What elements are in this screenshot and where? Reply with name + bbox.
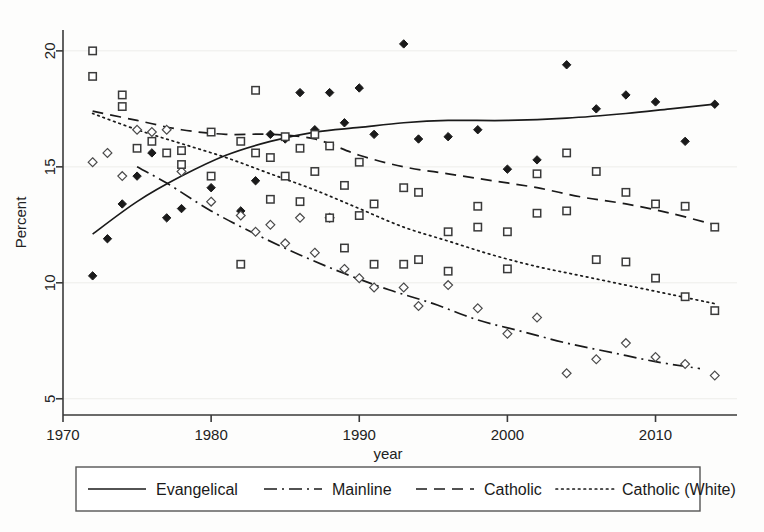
data-point-marker [296,145,303,152]
data-point-marker [133,172,141,180]
data-point-marker [237,261,244,268]
x-tick-label: 1970 [46,426,79,443]
data-point-marker [326,214,333,221]
data-point-marker [147,128,156,137]
data-point-marker [681,293,688,300]
data-point-marker [711,223,718,230]
data-point-marker [415,189,422,196]
data-point-marker [118,172,127,181]
data-point-marker [103,235,111,243]
data-point-marker [281,172,288,179]
data-point-marker [473,304,482,313]
data-point-marker [267,154,274,161]
data-point-marker [88,158,97,167]
data-point-marker [562,61,570,69]
data-point-marker [533,156,541,164]
data-point-marker [311,168,318,175]
legend-label-catholic: Catholic [484,481,542,498]
data-point-marker [444,228,451,235]
data-point-marker [207,128,214,135]
data-point-marker [651,98,659,106]
data-point-marker [711,100,719,108]
data-point-marker [563,149,570,156]
data-point-marker [281,133,288,140]
data-point-marker [266,220,275,229]
data-point-marker [148,149,156,157]
data-point-marker [356,212,363,219]
data-point-marker [622,339,631,348]
x-tick-label: 2010 [639,426,672,443]
data-point-marker [178,161,185,168]
data-point-marker [622,189,629,196]
data-point-marker [503,329,512,338]
series-markers-catholic-white [89,47,719,314]
data-point-marker [251,227,260,236]
data-point-marker [88,272,96,280]
data-point-marker [681,137,689,145]
data-point-marker [266,130,274,138]
data-point-marker [148,138,155,145]
y-axis-title: Percent [12,196,29,249]
data-point-marker [681,360,690,369]
data-point-marker [652,200,659,207]
data-point-marker [340,119,348,127]
fit-line-mainline [137,167,700,369]
data-point-marker [267,196,274,203]
data-point-marker [444,268,451,275]
axis-titles: Percentyear [12,196,403,462]
legend-box: EvangelicalMainlineCatholicCatholic (Whi… [76,467,736,511]
data-point-marker [415,256,422,263]
data-point-marker [593,168,600,175]
percent-by-tradition-scatter-plot: 5101520 19701980199020002010 Percentyear… [0,0,764,532]
data-point-marker [207,197,216,206]
data-point-marker [622,258,629,265]
data-point-marker [533,210,540,217]
data-point-marker [370,200,377,207]
data-point-marker [252,149,259,156]
data-point-marker [355,274,364,283]
data-point-marker [162,214,170,222]
data-point-marker [563,207,570,214]
data-point-marker [414,135,422,143]
data-point-marker [504,228,511,235]
data-point-marker [681,203,688,210]
data-point-marker [622,91,630,99]
data-point-marker [163,149,170,156]
data-point-marker [119,91,126,98]
data-point-marker [651,353,660,362]
data-point-marker [355,84,363,92]
data-point-marker [400,184,407,191]
data-point-marker [237,138,244,145]
data-point-marker [103,149,112,158]
data-point-marker [370,261,377,268]
legend-label-mainline: Mainline [332,481,392,498]
data-point-marker [533,170,540,177]
data-point-marker [414,302,423,311]
x-axis-title: year [373,445,402,462]
y-tick-label: 5 [42,395,59,403]
data-point-marker [533,313,542,322]
data-point-marker [593,256,600,263]
y-axis-ticks: 5101520 [42,43,64,403]
y-tick-label: 10 [42,274,59,291]
data-point-marker [310,248,319,257]
data-point-marker [311,131,318,138]
series-markers-evangelical [88,40,719,280]
data-point-marker [370,130,378,138]
data-point-marker [207,172,214,179]
data-point-marker [326,142,333,149]
data-point-marker [296,213,305,222]
data-point-marker [296,198,303,205]
data-point-marker [178,147,185,154]
x-tick-label: 1990 [343,426,376,443]
data-point-marker [251,177,259,185]
fit-line-evangelical [93,104,715,234]
x-tick-label: 1980 [194,426,227,443]
data-point-marker [296,88,304,96]
data-point-marker [503,165,511,173]
data-point-marker [474,126,482,134]
data-point-marker [252,87,259,94]
data-point-marker [399,283,408,292]
data-point-marker [592,105,600,113]
data-point-marker [474,223,481,230]
